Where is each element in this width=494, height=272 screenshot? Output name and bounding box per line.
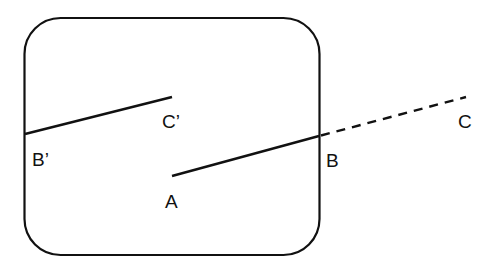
label-b: B: [326, 150, 339, 171]
segment-bc-dashed: [321, 97, 466, 136]
label-b-prime: B’: [32, 149, 49, 170]
label-c-prime: C’: [162, 111, 180, 132]
label-c: C: [458, 111, 472, 132]
segment-ab: [172, 136, 319, 176]
segment-b-prime-c-prime: [25, 97, 172, 134]
diagram-canvas: C’ B’ A B C: [0, 0, 494, 272]
label-a: A: [165, 191, 178, 212]
window-boundary: [25, 18, 320, 255]
